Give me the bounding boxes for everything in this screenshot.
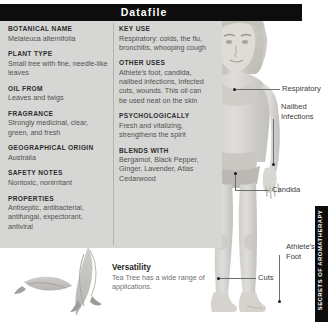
field-key-use: KEY USE Respiratory: colds, the flu, bro… [119,24,211,52]
annotation-dot-athletes-foot [278,300,281,303]
versatility-text: Tea Tree has a wide range of application… [112,273,208,292]
annotation-line-cuts [219,278,256,279]
right-field-column: KEY USE Respiratory: colds, the flu, bro… [119,24,211,189]
field-value: Bergamot, Black Pepper, Ginger, Lavender… [119,155,211,183]
field-oil-from: OIL FROM Leaves and twigs [8,84,108,103]
page-title: Datafile [0,4,288,21]
field-value: Respiratory: colds, the flu, bronchitis,… [119,34,211,52]
field-label: BLENDS WITH [119,146,211,155]
annotation-dot-nailbed [272,163,275,166]
field-label: GEOGRAPHICAL ORIGIN [8,143,108,152]
field-label: OIL FROM [8,84,108,93]
field-label: BOTANICAL NAME [8,24,108,33]
field-value: Strongly medicinal, clear, green, and fr… [8,118,108,136]
field-value: Melaleuca alternifolia [8,34,108,43]
annotation-line-respiratory [235,89,280,90]
field-properties: PROPERTIES Antiseptic, antibacterial, an… [8,194,108,231]
field-blends-with: BLENDS WITH Bergamot, Black Pepper, Ging… [119,146,211,183]
tea-tree-sprig-illustration [70,246,102,316]
tea-tree-leaf-illustration [14,277,72,294]
annotation-line-candida-v [235,174,236,190]
annotation-dot-respiratory [233,88,236,91]
side-tab-label: SECRETS OF AROMATHERAPY [317,202,323,318]
field-value: Nontoxic, nonirritant [8,178,108,187]
field-value: Fresh and vitalizing, strengthens the sp… [119,121,211,139]
field-geographical-origin: GEOGRAPHICAL ORIGIN Australia [8,143,108,162]
annotation-respiratory: Respiratory [282,84,332,94]
field-safety-notes: SAFETY NOTES Nontoxic, nonirritant [8,168,108,187]
annotation-candida: Candida [272,185,318,195]
field-other-uses: OTHER USES Athlete's foot, candida, nail… [119,58,211,104]
field-psychologically: PSYCHOLOGICALLY Fresh and vitalizing, st… [119,111,211,139]
field-plant-type: PLANT TYPE Small tree with fine, needle-… [8,49,108,77]
datafile-page: Datafile BOTANICAL NAME Melaleuca altern… [0,0,332,327]
field-label: PSYCHOLOGICALLY [119,111,211,120]
field-fragrance: FRAGRANCE Strongly medicinal, clear, gre… [8,109,108,137]
field-value: Small tree with fine, needle-like leaves [8,59,108,77]
field-value: Athlete's foot, candida, nailbed infecti… [119,68,211,105]
column-divider [113,23,114,245]
field-label: KEY USE [119,24,211,33]
field-value: Antiseptic, antibacterial, antifungal, e… [8,203,108,231]
field-botanical-name: BOTANICAL NAME Melaleuca alternifolia [8,24,108,43]
annotation-line-candida-h [235,190,269,191]
field-value: Leaves and twigs [8,93,108,102]
annotation-line-nailbed [273,119,274,164]
annotation-dot-candida [234,172,237,175]
annotation-cuts: Cuts [258,273,290,283]
field-label: PLANT TYPE [8,49,108,58]
field-label: PROPERTIES [8,194,108,203]
versatility-callout: Versatility Tea Tree has a wide range of… [112,262,208,292]
left-field-column: BOTANICAL NAME Melaleuca alternifolia PL… [8,24,108,237]
annotation-nailbed-infections: Nailbed Infections [281,102,329,121]
versatility-title: Versatility [112,262,208,273]
annotation-dot-cuts [217,277,220,280]
field-label: FRAGRANCE [8,109,108,118]
field-value: Australia [8,153,108,162]
field-label: SAFETY NOTES [8,168,108,177]
field-label: OTHER USES [119,58,211,67]
